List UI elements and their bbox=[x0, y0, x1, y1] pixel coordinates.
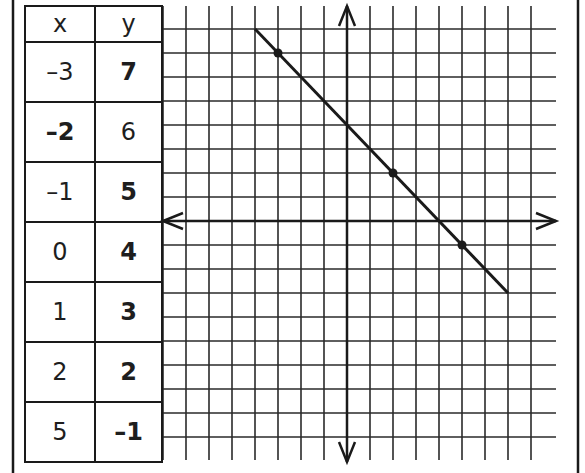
cell-x: 2 bbox=[25, 342, 95, 402]
cell-x: –1 bbox=[25, 162, 95, 222]
cell-x: 0 bbox=[25, 222, 95, 282]
cell-y: 2 bbox=[95, 342, 162, 402]
cell-x: 1 bbox=[25, 282, 95, 342]
graph-line bbox=[255, 29, 508, 293]
table-row: 0 4 bbox=[25, 222, 162, 282]
plotted-point bbox=[458, 241, 467, 250]
header-x: x bbox=[25, 6, 95, 42]
cell-y: 4 bbox=[95, 222, 162, 282]
table-header: x y bbox=[25, 6, 162, 42]
plotted-point bbox=[389, 169, 398, 178]
grid-lines bbox=[163, 6, 556, 460]
table-row: –2 6 bbox=[25, 102, 162, 162]
table-row: 5 –1 bbox=[25, 402, 162, 462]
header-y: y bbox=[95, 6, 162, 42]
cell-x: –3 bbox=[25, 42, 95, 102]
cell-y: 5 bbox=[95, 162, 162, 222]
cell-x: 5 bbox=[25, 402, 95, 462]
cell-x: –2 bbox=[25, 102, 95, 162]
plotted-point bbox=[274, 49, 283, 58]
cell-y: 7 bbox=[95, 42, 162, 102]
cell-y: –1 bbox=[95, 402, 162, 462]
table-row: 2 2 bbox=[25, 342, 162, 402]
cell-y: 6 bbox=[95, 102, 162, 162]
table-row: –1 5 bbox=[25, 162, 162, 222]
table-row: 1 3 bbox=[25, 282, 162, 342]
xy-table: x y –3 7 –2 6 –1 5 0 4 1 3 2 2 5 –1 bbox=[24, 5, 163, 463]
table-row: –3 7 bbox=[25, 42, 162, 102]
cell-y: 3 bbox=[95, 282, 162, 342]
plotted-line bbox=[255, 29, 508, 293]
axes bbox=[163, 6, 556, 462]
worksheet-figure: x y –3 7 –2 6 –1 5 0 4 1 3 2 2 5 –1 bbox=[0, 0, 585, 473]
